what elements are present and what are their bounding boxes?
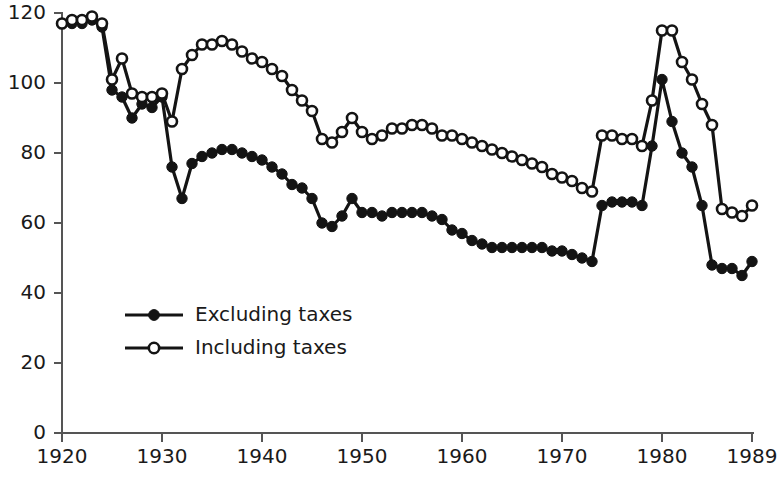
- data-point: [337, 127, 347, 137]
- data-point: [237, 47, 247, 57]
- data-point: [567, 249, 577, 259]
- data-point: [407, 207, 417, 217]
- data-point: [197, 151, 207, 161]
- data-point: [97, 19, 107, 29]
- data-point: [527, 159, 537, 169]
- data-point: [307, 106, 317, 116]
- data-point: [607, 131, 617, 141]
- data-point: [407, 120, 417, 130]
- data-point: [627, 197, 637, 207]
- data-point: [387, 124, 397, 134]
- data-point: [517, 242, 527, 252]
- data-point: [297, 183, 307, 193]
- data-point: [687, 162, 697, 172]
- data-point: [647, 96, 657, 106]
- data-point: [367, 207, 377, 217]
- data-point: [607, 197, 617, 207]
- data-point: [177, 64, 187, 74]
- data-point: [657, 26, 667, 36]
- data-point: [597, 131, 607, 141]
- data-point: [707, 260, 717, 270]
- data-point: [247, 54, 257, 64]
- data-point: [247, 151, 257, 161]
- y-axis-tick-label: 120: [0, 2, 46, 22]
- data-point: [517, 155, 527, 165]
- data-point: [347, 193, 357, 203]
- data-point: [467, 138, 477, 148]
- data-point: [367, 134, 377, 144]
- data-point: [717, 204, 727, 214]
- data-point: [657, 74, 667, 84]
- data-point: [287, 85, 297, 95]
- data-point: [107, 85, 117, 95]
- data-point: [437, 214, 447, 224]
- chart-figure: 020406080100120 192019301940195019601970…: [0, 0, 780, 484]
- chart-series-layer: [57, 12, 757, 281]
- x-axis-tick-label: 1970: [527, 446, 597, 466]
- data-point: [447, 131, 457, 141]
- x-axis-tick-label: 1920: [27, 446, 97, 466]
- legend-swatch: [149, 310, 160, 321]
- chart-legend-marks: [125, 310, 183, 354]
- series-including-taxes: [57, 12, 757, 222]
- data-point: [527, 242, 537, 252]
- data-point: [57, 19, 67, 29]
- data-point: [727, 208, 737, 218]
- legend-swatch: [149, 343, 159, 353]
- data-point: [417, 120, 427, 130]
- data-point: [127, 89, 137, 99]
- data-point: [257, 155, 267, 165]
- data-point: [497, 242, 507, 252]
- y-axis-tick-label: 20: [0, 352, 46, 372]
- data-point: [167, 162, 177, 172]
- data-point: [317, 218, 327, 228]
- data-point: [227, 40, 237, 50]
- data-point: [667, 26, 677, 36]
- data-point: [507, 152, 517, 162]
- data-point: [427, 211, 437, 221]
- data-point: [147, 92, 157, 102]
- data-point: [467, 235, 477, 245]
- data-point: [457, 134, 467, 144]
- data-point: [297, 96, 307, 106]
- data-point: [217, 36, 227, 46]
- data-point: [637, 200, 647, 210]
- data-point: [217, 144, 227, 154]
- x-axis-tick-label: 1980: [627, 446, 697, 466]
- data-point: [227, 144, 237, 154]
- chart-axes: [54, 12, 754, 442]
- data-point: [187, 50, 197, 60]
- data-point: [327, 138, 337, 148]
- data-point: [687, 75, 697, 85]
- data-point: [697, 200, 707, 210]
- data-point: [207, 148, 217, 158]
- data-point: [177, 193, 187, 203]
- data-point: [117, 54, 127, 64]
- data-point: [277, 169, 287, 179]
- data-point: [727, 263, 737, 273]
- y-axis-tick-label: 60: [0, 212, 46, 232]
- data-point: [627, 134, 637, 144]
- y-axis-tick-label: 40: [0, 282, 46, 302]
- data-point: [477, 141, 487, 151]
- data-point: [537, 162, 547, 172]
- data-point: [117, 92, 127, 102]
- data-point: [577, 183, 587, 193]
- data-point: [77, 15, 87, 25]
- data-point: [577, 253, 587, 263]
- series-excluding-taxes: [57, 15, 757, 281]
- data-point: [237, 148, 247, 158]
- data-point: [317, 134, 327, 144]
- x-axis-tick-label: 1940: [227, 446, 297, 466]
- data-point: [737, 270, 747, 280]
- data-point: [617, 134, 627, 144]
- data-point: [637, 141, 647, 151]
- data-point: [707, 120, 717, 130]
- data-point: [377, 131, 387, 141]
- x-axis-tick-label: 1950: [327, 446, 397, 466]
- data-point: [747, 256, 757, 266]
- data-point: [387, 207, 397, 217]
- legend-label-excluding-taxes: Excluding taxes: [195, 304, 352, 324]
- data-point: [447, 225, 457, 235]
- data-point: [487, 145, 497, 155]
